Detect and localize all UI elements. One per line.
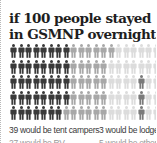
pictogram-row (10, 106, 156, 122)
legend-lodgers: 3 would be lodgers (99, 125, 156, 136)
person-icon-other (115, 44, 123, 58)
person-icon-other (108, 60, 116, 74)
person-icon-other (145, 44, 153, 58)
legend-others-clipped: 5 would be others (99, 138, 156, 143)
person-icon-other (115, 106, 123, 120)
title-line-1: if 100 people stayed (9, 10, 156, 26)
legend-rv-clipped: 27 would be RV... (9, 138, 70, 143)
person-icon-tent-camper (40, 44, 48, 58)
person-icon-rv-camper (85, 44, 93, 58)
chart-title: if 100 people stayed in GSMNP overnight (9, 10, 156, 42)
person-icon-tent-camper (55, 44, 63, 58)
person-icon-other (145, 75, 153, 89)
person-icon-rv-camper (70, 75, 78, 89)
person-icon-tent-camper (18, 75, 26, 89)
person-icon-rv-camper (93, 106, 101, 120)
pictogram-grid (10, 44, 156, 122)
person-icon-lodger (138, 75, 146, 89)
person-icon-other (123, 75, 131, 89)
person-icon-rv-camper (85, 91, 93, 105)
person-icon-other (115, 60, 123, 74)
person-icon-rv-camper (100, 91, 108, 105)
person-icon-other (130, 60, 138, 74)
person-icon-tent-camper (25, 60, 33, 74)
person-icon-tent-camper (10, 60, 18, 74)
person-icon-tent-camper (25, 106, 33, 120)
person-icon-other (108, 91, 116, 105)
title-line-2: in GSMNP overnight (9, 26, 156, 42)
person-icon-rv-camper (70, 60, 78, 74)
person-icon-tent-camper (33, 91, 41, 105)
person-icon-tent-camper (55, 60, 63, 74)
person-icon-other (108, 75, 116, 89)
person-icon-other (123, 60, 131, 74)
person-icon-other (123, 91, 131, 105)
person-icon-rv-camper (93, 91, 101, 105)
person-icon-tent-camper (55, 91, 63, 105)
person-icon-other (153, 91, 157, 105)
person-icon-other (123, 106, 131, 120)
person-icon-tent-camper (48, 44, 56, 58)
person-icon-tent-camper (25, 44, 33, 58)
pictogram-row (10, 60, 156, 76)
person-icon-tent-camper (33, 44, 41, 58)
person-icon-rv-camper (85, 106, 93, 120)
person-icon-rv-camper (63, 106, 71, 120)
pictogram-row (10, 44, 156, 60)
person-icon-tent-camper (40, 106, 48, 120)
person-icon-tent-camper (63, 91, 71, 105)
person-icon-other (138, 44, 146, 58)
person-icon-rv-camper (78, 44, 86, 58)
person-icon-tent-camper (40, 60, 48, 74)
person-icon-tent-camper (63, 44, 71, 58)
person-icon-other (130, 75, 138, 89)
person-icon-rv-camper (100, 60, 108, 74)
person-icon-tent-camper (40, 75, 48, 89)
person-icon-tent-camper (63, 75, 71, 89)
person-icon-other (115, 75, 123, 89)
person-icon-tent-camper (10, 91, 18, 105)
person-icon-rv-camper (85, 60, 93, 74)
person-icon-rv-camper (78, 60, 86, 74)
person-icon-rv-camper (100, 106, 108, 120)
pictogram-row (10, 91, 156, 107)
person-icon-other (153, 44, 157, 58)
person-icon-other (130, 44, 138, 58)
person-icon-tent-camper (18, 91, 26, 105)
person-icon-tent-camper (55, 106, 63, 120)
person-icon-tent-camper (33, 75, 41, 89)
person-icon-tent-camper (48, 106, 56, 120)
person-icon-tent-camper (10, 106, 18, 120)
person-icon-tent-camper (18, 106, 26, 120)
person-icon-other (108, 106, 116, 120)
person-icon-rv-camper (100, 75, 108, 89)
person-icon-lodger (138, 91, 146, 105)
person-icon-tent-camper (25, 91, 33, 105)
person-icon-rv-camper (70, 44, 78, 58)
person-icon-other (145, 91, 153, 105)
person-icon-other (153, 75, 157, 89)
person-icon-other (153, 60, 157, 74)
person-icon-tent-camper (63, 60, 71, 74)
person-icon-rv-camper (70, 91, 78, 105)
person-icon-tent-camper (33, 60, 41, 74)
person-icon-rv-camper (108, 44, 116, 58)
person-icon-other (130, 106, 138, 120)
person-icon-rv-camper (70, 106, 78, 120)
person-icon-tent-camper (55, 75, 63, 89)
person-icon-other (115, 91, 123, 105)
person-icon-tent-camper (48, 60, 56, 74)
chart-frame: if 100 people stayed in GSMNP overnight … (0, 0, 156, 143)
person-icon-rv-camper (100, 44, 108, 58)
person-icon-rv-camper (78, 91, 86, 105)
person-icon-other (145, 60, 153, 74)
person-icon-rv-camper (78, 75, 86, 89)
person-icon-tent-camper (18, 60, 26, 74)
person-icon-other (145, 106, 153, 120)
person-icon-other (153, 106, 157, 120)
person-icon-rv-camper (93, 60, 101, 74)
person-icon-tent-camper (33, 106, 41, 120)
person-icon-tent-camper (48, 75, 56, 89)
pictogram-row (10, 75, 156, 91)
person-icon-tent-camper (10, 44, 18, 58)
